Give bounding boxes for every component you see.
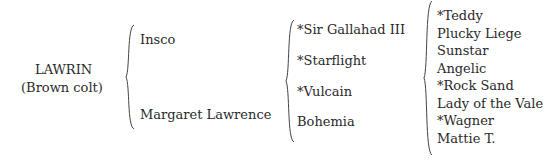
grandparent: Bohemia [297, 114, 355, 130]
great-grandparent: Mattie T. [437, 131, 495, 147]
brace-icon [422, 0, 434, 156]
grandparent: *Sir Gallahad III [297, 22, 405, 38]
subject-name: LAWRIN [35, 62, 92, 78]
great-grandparent: Plucky Liege [437, 26, 521, 42]
brace-icon [124, 24, 136, 130]
parent-dam: Margaret Lawrence [140, 107, 271, 123]
great-grandparent: Sunstar [437, 43, 489, 59]
parent-sire: Insco [140, 32, 175, 48]
great-grandparent: Lady of the Vale [437, 96, 543, 112]
grandparent: *Vulcain [297, 84, 352, 100]
brace-icon [284, 19, 296, 143]
grandparent: *Starflight [297, 53, 366, 69]
subject-description: (Brown colt) [21, 80, 103, 96]
great-grandparent: *Rock Sand [437, 78, 514, 94]
great-grandparent: *Wagner [437, 113, 494, 129]
great-grandparent: Angelic [437, 61, 486, 77]
great-grandparent: *Teddy [437, 8, 483, 24]
